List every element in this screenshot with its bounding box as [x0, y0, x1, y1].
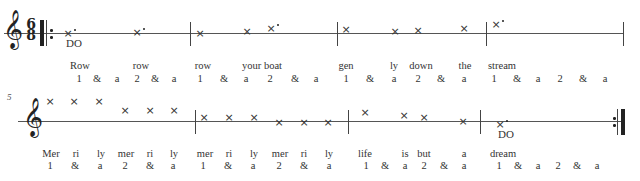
x-note-icon: ×	[169, 105, 178, 116]
x-note-icon: ×	[45, 96, 54, 107]
treble-clef-icon: 𝄞	[23, 96, 43, 136]
beat-count: a	[462, 160, 467, 171]
x-note-icon: ×	[224, 112, 233, 123]
repeat-end-thin-bar	[617, 109, 618, 135]
lyric-syllable: ly	[170, 148, 178, 159]
beat-count: 2	[122, 160, 127, 171]
beat-count: 2	[276, 160, 281, 171]
beat-count: a	[98, 160, 103, 171]
x-note-icon: ×	[249, 112, 258, 123]
x-note-icon: ×	[274, 117, 283, 128]
repeat-end-thick-bar	[621, 109, 625, 135]
lyric-syllable: ri	[73, 148, 79, 159]
x-note-icon: ×	[419, 112, 428, 123]
staff-line	[18, 121, 625, 122]
beat-count: &	[71, 160, 79, 171]
beat-count: &	[224, 160, 232, 171]
beat-count: a	[171, 160, 176, 171]
x-note-icon: ×	[299, 117, 308, 128]
x-note-icon: ×	[458, 116, 467, 127]
beat-count: a	[536, 160, 541, 171]
system-2: 5 𝄞 ×××××××××××××××××DO Merrilymerrilyme…	[0, 0, 640, 181]
lyric-syllable: a	[462, 148, 467, 159]
repeat-dot	[613, 124, 616, 127]
x-note-icon: ×	[94, 96, 103, 107]
x-note-icon: ×	[360, 107, 369, 118]
beat-count: &	[381, 160, 389, 171]
beat-count: 2	[421, 160, 426, 171]
lyric-syllable: ri	[301, 148, 307, 159]
beat-count: &	[573, 160, 581, 171]
measure-number: 5	[7, 92, 12, 102]
lyric-syllable: Mer	[42, 148, 60, 159]
x-note-icon: ×	[323, 117, 332, 128]
lyric-syllable: ly	[250, 148, 258, 159]
beat-count: 1	[496, 160, 501, 171]
barline	[348, 110, 349, 134]
solfege-label: DO	[498, 128, 514, 140]
beat-count: &	[146, 160, 154, 171]
beat-count: &	[440, 160, 448, 171]
lyric-syllable: ri	[226, 148, 232, 159]
barline	[480, 110, 481, 134]
lyric-syllable: ly	[325, 148, 333, 159]
beat-count: 1	[47, 160, 52, 171]
x-note-icon: ×	[120, 105, 129, 116]
lyric-syllable: mer	[118, 148, 134, 159]
x-note-icon: ×	[145, 105, 154, 116]
lyric-syllable: but	[417, 148, 430, 159]
x-note-icon: ×	[69, 96, 78, 107]
lyric-syllable: mer	[272, 148, 288, 159]
lyric-syllable: ly	[97, 148, 105, 159]
x-note-icon: ×	[199, 112, 208, 123]
dotted-note-dot	[506, 120, 508, 122]
beat-count: &	[300, 160, 308, 171]
beat-count: a	[403, 160, 408, 171]
beat-count: &	[514, 160, 522, 171]
repeat-dot	[613, 117, 616, 120]
beat-count: a	[327, 160, 332, 171]
barline	[195, 110, 196, 134]
beat-count: 1	[363, 160, 368, 171]
lyric-syllable: mer	[197, 148, 213, 159]
beat-count: 2	[555, 160, 560, 171]
lyric-syllable: dream	[490, 148, 516, 159]
beat-count: a	[595, 160, 600, 171]
lyric-syllable: is	[401, 148, 408, 159]
lyric-syllable: ri	[147, 148, 153, 159]
lyric-syllable: life	[358, 148, 372, 159]
x-note-icon: ×	[399, 110, 408, 121]
beat-count: a	[251, 160, 256, 171]
beat-count: 1	[200, 160, 205, 171]
